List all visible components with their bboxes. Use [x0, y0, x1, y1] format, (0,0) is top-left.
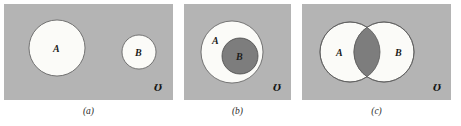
set-a-label: A	[53, 44, 60, 54]
set-a-label: A	[336, 48, 343, 58]
caption-b: (b)	[184, 107, 291, 117]
panel-c: A B Ʊ	[302, 4, 451, 100]
panel-c-graphics	[302, 4, 451, 100]
caption-a: (a)	[4, 107, 173, 117]
set-b-label: B	[236, 52, 243, 62]
caption-c: (c)	[302, 107, 451, 117]
universe-symbol: Ʊ	[433, 84, 441, 93]
universe-symbol: Ʊ	[273, 84, 281, 93]
set-b-label: B	[135, 48, 142, 58]
panel-a: A B Ʊ	[4, 4, 173, 100]
panel-a-graphics	[4, 4, 173, 100]
set-b-label: B	[395, 48, 402, 58]
set-a-label: A	[212, 36, 219, 46]
panel-b: A B Ʊ	[184, 4, 291, 100]
universe-symbol: Ʊ	[154, 84, 162, 93]
venn-figure: A B Ʊ (a) A B Ʊ (b) A	[0, 0, 461, 126]
